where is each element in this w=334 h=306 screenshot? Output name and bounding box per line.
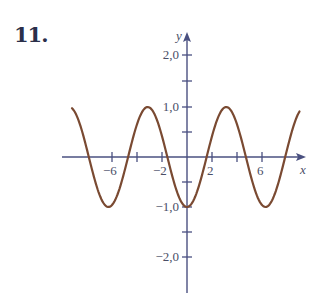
- x-tick-label: −2: [153, 163, 167, 178]
- function-graph: −6 −2 2 6 2,0 1,0 −1,0 −2,0 x y: [0, 0, 334, 306]
- y-tick-label: −1,0: [155, 199, 179, 214]
- y-tick-label: −2,0: [155, 249, 179, 264]
- x-axis-label: x: [299, 162, 306, 177]
- x-tick-label: 2: [207, 163, 214, 178]
- y-tick-label: 1,0: [163, 99, 179, 114]
- y-tick-label: 2,0: [163, 47, 179, 62]
- x-tick-label: 6: [257, 163, 264, 178]
- y-axis-label: y: [174, 28, 182, 43]
- x-tick-label: −6: [103, 163, 117, 178]
